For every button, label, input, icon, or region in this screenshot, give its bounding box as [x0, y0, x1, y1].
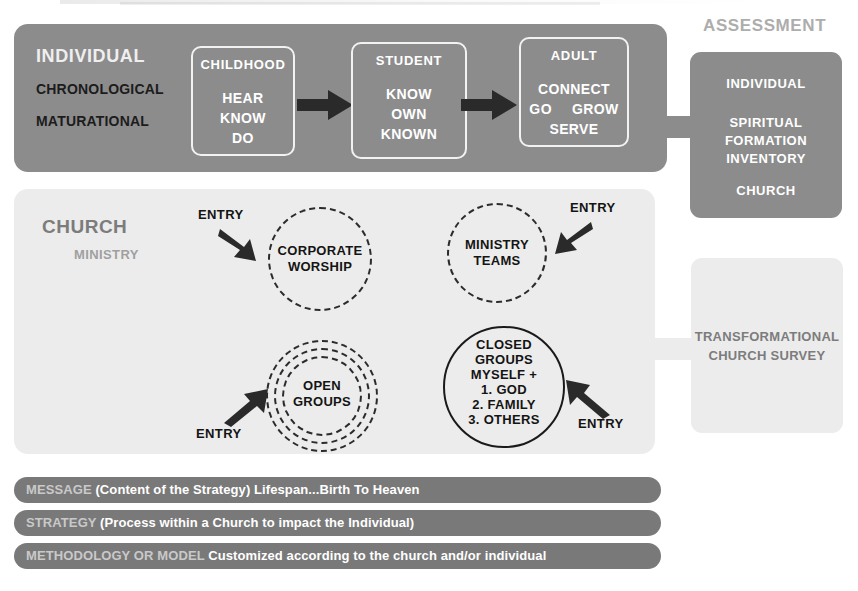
- entry-arrow-closed-groups: [560, 375, 612, 419]
- stage-student-heading: STUDENT: [353, 53, 465, 68]
- stage-adult-serve: SERVE: [521, 119, 627, 139]
- stage-box-childhood: CHILDHOOD HEAR KNOW DO: [191, 46, 295, 156]
- church-title: CHURCH: [42, 216, 127, 238]
- bar-message-text: MESSAGE (Content of the Strategy) Lifesp…: [26, 482, 420, 497]
- assessment-spiritual-formation-inventory-label: SPIRITUAL FORMATION INVENTORY: [690, 114, 842, 168]
- assessment-church-label: CHURCH: [690, 183, 842, 198]
- bar-message-rest: (Content of the Strategy) Lifespan...Bir…: [92, 482, 420, 497]
- entry-label-open-groups: ENTRY: [196, 426, 242, 441]
- stage-childhood-line-2: KNOW: [193, 108, 293, 128]
- corporate-worship-label: CORPORATE WORSHIP: [268, 243, 372, 275]
- bar-strategy-text: STRATEGY (Process within a Church to imp…: [26, 515, 414, 530]
- bar-strategy-rest: (Process within a Church to impact the I…: [96, 515, 414, 530]
- stage-childhood-heading: CHILDHOOD: [193, 57, 293, 72]
- scan-artifact-top-secondary: [120, 2, 600, 5]
- assessment-box: INDIVIDUAL SPIRITUAL FORMATION INVENTORY…: [690, 52, 842, 218]
- stage-adult-connect: CONNECT: [521, 79, 627, 99]
- entry-arrow-corporate-worship: [218, 225, 268, 265]
- stage-adult-grow: GROW: [572, 99, 619, 119]
- bar-strategy-key: STRATEGY: [26, 515, 96, 530]
- bar-methodology-rest: Customized according to the church and/o…: [204, 548, 546, 563]
- open-groups-label: OPEN GROUPS: [276, 378, 368, 410]
- stage-adult-heading: ADULT: [521, 48, 627, 63]
- individual-title: INDIVIDUAL: [36, 46, 145, 67]
- stage-student-line-2: OWN: [353, 104, 465, 124]
- transformational-church-survey-label: TRANSFORMATIONAL CHURCH SURVEY: [691, 327, 843, 365]
- assessment-individual-label: INDIVIDUAL: [690, 76, 842, 91]
- stage-childhood-line-3: DO: [193, 128, 293, 148]
- stage-adult-go-grow-row: GO GROW: [521, 99, 627, 119]
- stage-childhood-lines: HEAR KNOW DO: [193, 88, 293, 148]
- diagram-canvas: INDIVIDUAL CHRONOLOGICAL MATURATIONAL CH…: [0, 0, 858, 591]
- stage-box-adult: ADULT CONNECT GO GROW SERVE: [519, 37, 629, 147]
- stage-box-student: STUDENT KNOW OWN KNOWN: [351, 42, 467, 159]
- entry-arrow-ministry-teams: [543, 218, 593, 258]
- bar-methodology-text: METHODOLOGY OR MODEL Customized accordin…: [26, 548, 546, 563]
- connector-church-to-survey: [653, 338, 693, 360]
- ministry-teams-label: MINISTRY TEAMS: [447, 237, 547, 269]
- entry-label-corporate-worship: ENTRY: [198, 207, 244, 222]
- stage-childhood-line-1: HEAR: [193, 88, 293, 108]
- bar-message-key: MESSAGE: [26, 482, 92, 497]
- stage-adult-lines: CONNECT GO GROW SERVE: [521, 79, 627, 139]
- individual-maturational-label: MATURATIONAL: [36, 113, 149, 129]
- stage-student-line-3: KNOWN: [353, 124, 465, 144]
- closed-groups-label: CLOSED GROUPS MYSELF + 1. GOD 2. FAMILY …: [443, 337, 565, 427]
- arrow-childhood-to-student: [297, 88, 353, 122]
- assessment-label: ASSESSMENT: [703, 16, 826, 36]
- entry-arrow-open-groups: [222, 385, 272, 427]
- transformational-church-survey-box: TRANSFORMATIONAL CHURCH SURVEY: [691, 258, 843, 433]
- entry-label-ministry-teams: ENTRY: [570, 200, 616, 215]
- arrow-student-to-adult: [461, 88, 517, 122]
- stage-student-lines: KNOW OWN KNOWN: [353, 84, 465, 144]
- stage-student-line-1: KNOW: [353, 84, 465, 104]
- bar-methodology-key: METHODOLOGY OR MODEL: [26, 548, 204, 563]
- church-ministry-label: MINISTRY: [74, 247, 139, 262]
- stage-adult-go: GO: [529, 99, 552, 119]
- individual-chronological-label: CHRONOLOGICAL: [36, 81, 164, 97]
